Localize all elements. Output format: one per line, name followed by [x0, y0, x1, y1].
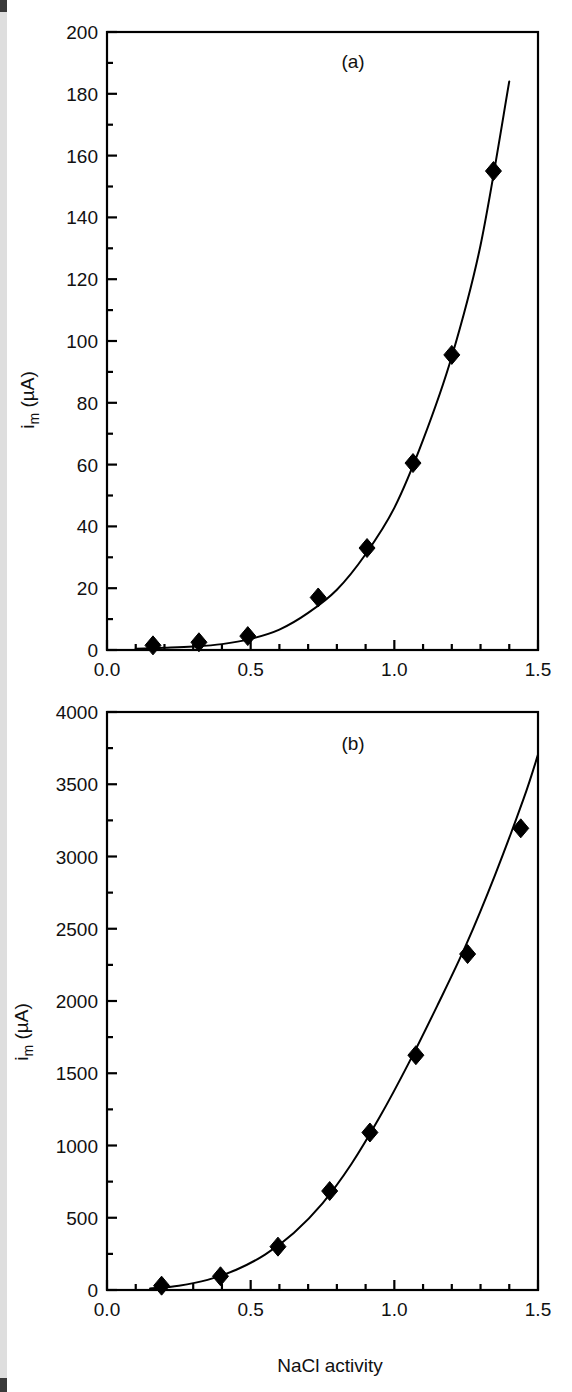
x-axis-title: NaCl activity	[277, 1355, 383, 1376]
y-tick-label: 1000	[56, 1136, 98, 1157]
data-point-marker	[460, 945, 476, 964]
y-tick-label: 3500	[56, 774, 98, 795]
y-axis-title-text: im (µA)	[11, 1003, 36, 1060]
y-tick-label: 140	[66, 207, 98, 228]
chart-svg-panel-b: 050010001500200025003000350040000.00.51.…	[0, 672, 572, 1392]
data-point-marker	[310, 588, 326, 607]
data-point-series	[145, 162, 501, 655]
panel-label: (b)	[341, 733, 364, 754]
y-tick-label: 160	[66, 146, 98, 167]
y-tick-label: 40	[77, 516, 98, 537]
y-tick-label: 180	[66, 84, 98, 105]
y-tick-label: 1500	[56, 1063, 98, 1084]
y-axis-title-subscript: m	[20, 1045, 36, 1057]
y-tick-label: 80	[77, 393, 98, 414]
x-tick-label: 1.0	[381, 1299, 407, 1320]
y-axis-title-unit: (µA)	[11, 1003, 32, 1045]
y-tick-label: 3000	[56, 847, 98, 868]
chart-panel-a: 0204060801001201401601802000.00.51.01.5(…	[0, 0, 572, 690]
data-point-series	[154, 819, 529, 1295]
panel-label: (a)	[341, 51, 364, 72]
fit-curve	[150, 755, 538, 1289]
data-point-marker	[154, 1276, 170, 1295]
y-tick-label: 2000	[56, 991, 98, 1012]
y-tick-label: 60	[77, 455, 98, 476]
y-axis-title-unit: (µA)	[17, 371, 38, 413]
y-tick-label: 20	[77, 578, 98, 599]
data-point-marker	[240, 627, 256, 646]
data-point-marker	[322, 1182, 338, 1201]
x-tick-label: 1.5	[525, 1299, 551, 1320]
data-point-marker	[405, 454, 421, 473]
y-tick-label: 100	[66, 331, 98, 352]
data-point-marker	[359, 539, 375, 558]
chart-panel-b: 050010001500200025003000350040000.00.51.…	[0, 672, 572, 1392]
y-axis-title: im (µA)	[17, 371, 42, 428]
y-axis-title-text: im (µA)	[17, 371, 42, 428]
figure-container: 0204060801001201401601802000.00.51.01.5(…	[0, 0, 572, 1392]
y-axis-title: im (µA)	[11, 1003, 36, 1060]
data-point-marker	[145, 636, 161, 655]
y-tick-label: 0	[87, 640, 98, 661]
fit-curve	[136, 81, 510, 648]
data-point-marker	[444, 345, 460, 364]
y-tick-label: 0	[87, 1280, 98, 1301]
y-tick-label: 4000	[56, 702, 98, 723]
data-point-marker	[485, 162, 501, 181]
y-tick-label: 200	[66, 22, 98, 43]
y-tick-label: 500	[66, 1208, 98, 1229]
chart-svg-panel-a: 0204060801001201401601802000.00.51.01.5(…	[0, 0, 572, 690]
x-tick-label: 0.0	[94, 1299, 120, 1320]
y-axis-ticks: 020406080100120140160180200	[66, 22, 117, 661]
y-tick-label: 120	[66, 269, 98, 290]
data-point-marker	[212, 1267, 228, 1286]
plot-frame	[107, 32, 538, 650]
data-point-marker	[270, 1237, 286, 1256]
x-tick-label: 0.5	[237, 1299, 263, 1320]
y-axis-title-subscript: m	[26, 413, 42, 425]
y-tick-label: 2500	[56, 919, 98, 940]
